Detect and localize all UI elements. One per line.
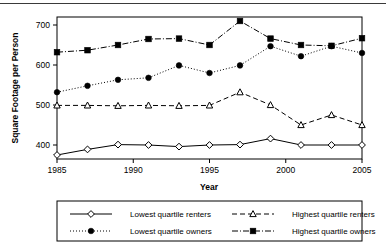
x-axis-ticks bbox=[57, 159, 362, 163]
data-point-marker bbox=[207, 42, 213, 48]
data-point-marker bbox=[88, 228, 94, 234]
data-point-marker bbox=[54, 152, 61, 159]
data-point-marker bbox=[206, 102, 212, 108]
data-point-marker bbox=[84, 146, 91, 153]
series-line bbox=[57, 46, 362, 92]
legend-label: Lowest quartile renters bbox=[130, 210, 211, 219]
legend-label: Highest quartile renters bbox=[292, 210, 375, 219]
data-point-marker bbox=[359, 122, 365, 128]
series-line bbox=[57, 92, 362, 125]
figure: 400500600700 19851990199520002005 Square… bbox=[0, 0, 386, 252]
x-tick-label: 1990 bbox=[124, 165, 143, 175]
data-series-layer bbox=[54, 18, 366, 158]
data-point-marker bbox=[85, 83, 91, 89]
data-point-marker bbox=[115, 77, 121, 83]
data-point-marker bbox=[359, 142, 366, 149]
plot-area-border bbox=[57, 17, 362, 159]
data-point-marker bbox=[268, 43, 274, 49]
data-point-marker bbox=[207, 70, 213, 76]
data-point-marker bbox=[176, 143, 183, 150]
data-point-marker bbox=[237, 63, 243, 69]
data-point-marker bbox=[359, 35, 365, 41]
line-chart: 400500600700 19851990199520002005 Square… bbox=[0, 0, 386, 252]
legend-label: Lowest quartile owners bbox=[130, 227, 212, 236]
series-3 bbox=[54, 18, 365, 55]
data-point-marker bbox=[298, 42, 304, 48]
series-2 bbox=[54, 89, 365, 128]
data-point-marker bbox=[328, 142, 335, 149]
series-0 bbox=[54, 135, 366, 158]
y-tick-label: 700 bbox=[36, 20, 50, 30]
data-point-marker bbox=[146, 75, 152, 81]
data-point-marker bbox=[250, 228, 256, 234]
top-rule bbox=[0, 3, 386, 4]
data-point-marker bbox=[54, 49, 60, 55]
y-axis-tick-labels: 400500600700 bbox=[36, 20, 50, 150]
x-tick-label: 2000 bbox=[276, 165, 295, 175]
x-tick-label: 2005 bbox=[353, 165, 372, 175]
series-1 bbox=[54, 43, 365, 95]
data-point-marker bbox=[298, 142, 305, 149]
data-point-marker bbox=[145, 142, 152, 149]
data-point-marker bbox=[146, 36, 152, 42]
data-point-marker bbox=[206, 142, 213, 149]
data-point-marker bbox=[237, 141, 244, 148]
data-point-marker bbox=[298, 53, 304, 59]
data-point-marker bbox=[176, 63, 182, 69]
legend: Lowest quartile rentersHighest quartile … bbox=[70, 210, 376, 236]
data-point-marker bbox=[359, 50, 365, 56]
y-tick-label: 600 bbox=[36, 60, 50, 70]
legend-label: Highest quartile owners bbox=[292, 227, 376, 236]
data-point-marker bbox=[268, 36, 274, 42]
y-tick-label: 500 bbox=[36, 100, 50, 110]
data-point-marker bbox=[88, 211, 95, 218]
y-axis-ticks bbox=[53, 25, 57, 145]
data-point-marker bbox=[115, 42, 121, 48]
data-point-marker bbox=[329, 43, 335, 49]
x-tick-label: 1985 bbox=[48, 165, 67, 175]
data-point-marker bbox=[267, 135, 274, 142]
x-axis-title: Year bbox=[200, 182, 219, 192]
data-point-marker bbox=[54, 89, 60, 95]
data-point-marker bbox=[237, 89, 243, 95]
y-axis-title: Square Footage per Person bbox=[10, 33, 20, 144]
data-point-marker bbox=[115, 141, 122, 148]
data-point-marker bbox=[85, 47, 91, 53]
data-point-marker bbox=[328, 112, 334, 118]
y-tick-label: 400 bbox=[36, 140, 50, 150]
x-tick-label: 1995 bbox=[200, 165, 219, 175]
data-point-marker bbox=[176, 36, 182, 42]
x-axis-tick-labels: 19851990199520002005 bbox=[48, 165, 372, 175]
data-point-marker bbox=[237, 18, 243, 24]
